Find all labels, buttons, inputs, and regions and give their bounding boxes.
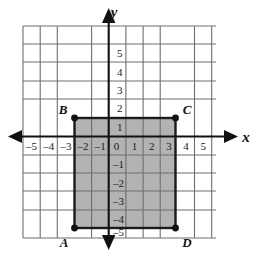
x-tick-label--4: –4 — [42, 140, 55, 152]
vertex-point-a — [71, 225, 78, 232]
y-tick-label--2: –2 — [112, 177, 124, 189]
y-tick-label--3: –3 — [112, 195, 125, 207]
y-axis-label: y — [109, 4, 118, 20]
x-tick-label--2: –2 — [77, 140, 89, 152]
vertex-label-c: C — [183, 102, 192, 117]
x-tick-label--5: –5 — [25, 140, 38, 152]
vertex-point-c — [172, 115, 179, 122]
y-tick-label-3: 3 — [117, 84, 123, 96]
x-axis-label: x — [241, 129, 250, 145]
x-tick-label-3: 3 — [166, 140, 172, 152]
x-tick-label-5: 5 — [201, 140, 207, 152]
vertex-point-d — [172, 225, 179, 232]
y-tick-label-5: 5 — [117, 47, 123, 59]
x-tick-label-1: 1 — [132, 140, 138, 152]
vertex-label-b: B — [58, 102, 68, 117]
x-tick-label-4: 4 — [183, 140, 189, 152]
y-tick-label-1: 1 — [117, 121, 123, 133]
x-tick-label-0: 0 — [114, 140, 120, 152]
y-tick-label--5: –5 — [112, 226, 125, 238]
y-tick-label--1: –1 — [112, 158, 124, 170]
y-tick-label-2: 2 — [117, 102, 123, 114]
x-tick-label--3: –3 — [59, 140, 72, 152]
y-tick-label--4: –4 — [112, 213, 125, 225]
x-tick-label-2: 2 — [149, 140, 155, 152]
y-tick-label-4: 4 — [117, 66, 123, 78]
vertex-label-a: A — [59, 235, 69, 250]
x-tick-label--1: –1 — [94, 140, 106, 152]
vertex-point-b — [71, 115, 78, 122]
vertex-label-d: D — [181, 235, 192, 250]
coordinate-plane-figure: x y –5 –4 –3 –2 –1 0 1 2 3 4 5 5 4 3 2 1… — [0, 0, 260, 253]
